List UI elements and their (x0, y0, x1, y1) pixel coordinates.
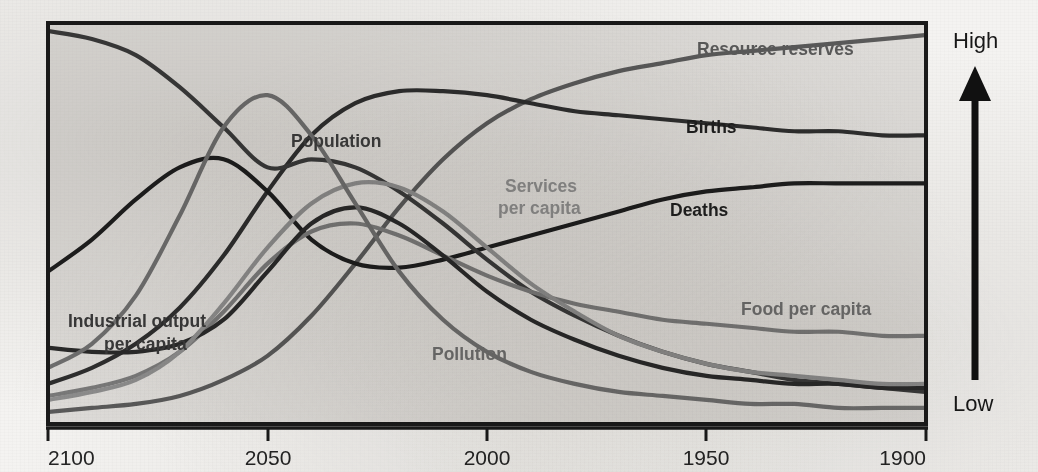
x-axis-tick-label-2000: 2000 (464, 446, 511, 469)
series-label-resource-reserves: Resource reserves (697, 39, 854, 59)
series-label-deaths: Deaths (670, 200, 729, 220)
x-axis-tick-label-2050: 2050 (245, 446, 292, 469)
series-label-births: Births (686, 117, 737, 137)
series-label-per-capita: per capita (104, 334, 187, 354)
series-label-services: Services (505, 176, 577, 196)
x-axis-tick-label-1900: 1900 (879, 446, 926, 469)
series-label-food-per-capita: Food per capita (741, 299, 872, 319)
scale-up-arrow-icon (959, 66, 991, 380)
series-label-per-capita: per capita (498, 198, 581, 218)
x-axis-tick-label-2100: 2100 (48, 446, 95, 469)
chart-canvas: 21002050200019501900 High Low Resource r… (0, 0, 1038, 472)
series-label-population: Population (291, 131, 381, 151)
scale-high-label: High (953, 28, 998, 53)
series-label-pollution: Pollution (432, 344, 507, 364)
limits-to-growth-chart: 21002050200019501900 High Low Resource r… (0, 0, 1038, 472)
series-label-industrial-output: Industrial output (68, 311, 206, 331)
x-axis-tick-label-1950: 1950 (683, 446, 730, 469)
scale-low-label: Low (953, 391, 993, 416)
x-axis-ticks: 21002050200019501900 (48, 428, 926, 469)
